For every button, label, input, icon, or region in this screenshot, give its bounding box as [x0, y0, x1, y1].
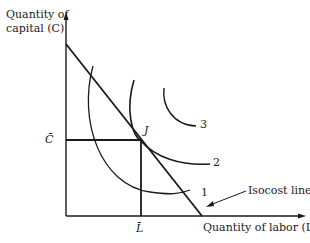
isoquant-2-label: 2 [213, 156, 220, 169]
isoquant-diagram [0, 0, 310, 243]
l-bar-label: L̄ [136, 222, 143, 235]
pointer-arrow-icon [206, 201, 214, 207]
c-bar-label: C̄ [45, 133, 53, 146]
isocost-pointer [210, 191, 246, 205]
y-axis-label-line1: Quantity of [6, 8, 69, 21]
isoquant-1-label: 1 [201, 186, 208, 199]
isoquant-1 [88, 66, 190, 194]
isoquant-3 [164, 88, 196, 126]
isoquant-3-label: 3 [200, 118, 207, 131]
tangent-point-label: J [144, 124, 148, 137]
y-axis-label-line2: capital (C) [6, 22, 64, 35]
isocost-label: Isocost line [248, 184, 310, 197]
x-axis-arrow-icon [298, 214, 306, 219]
x-axis-label: Quantity of labor (L) [203, 221, 310, 234]
